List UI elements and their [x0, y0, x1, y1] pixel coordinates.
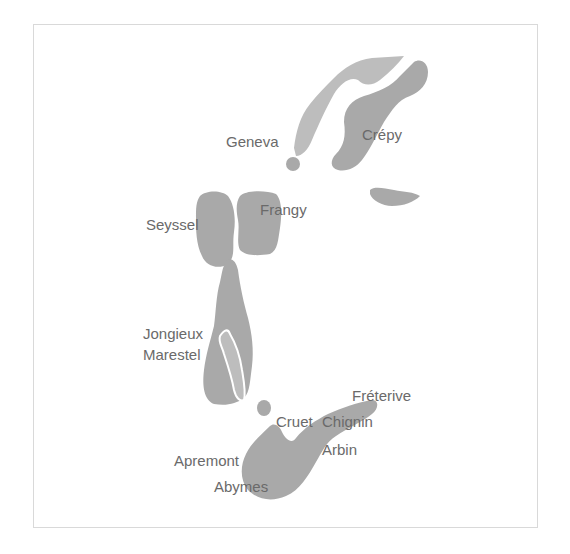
label-apremont: Apremont [174, 452, 240, 469]
label-freterive: Fréterive [352, 387, 411, 404]
label-seyssel: Seyssel [146, 216, 199, 233]
region-seyssel[interactable] [196, 192, 235, 267]
region-geneva-dot [286, 157, 300, 171]
region-crepy-south [370, 188, 420, 206]
label-jongieux: Jongieux [143, 325, 204, 342]
label-crepy: Crépy [362, 126, 403, 143]
wine-region-map: Geneva Crépy Frangy Seyssel Jongieux Mar… [0, 0, 570, 554]
label-marestel: Marestel [143, 346, 201, 363]
label-frangy: Frangy [260, 201, 307, 218]
label-abymes: Abymes [214, 478, 268, 495]
label-chignin: Chignin [322, 413, 373, 430]
label-cruet: Cruet [276, 413, 314, 430]
label-geneva: Geneva [226, 133, 279, 150]
region-small-dot [257, 400, 271, 416]
label-arbin: Arbin [322, 441, 357, 458]
